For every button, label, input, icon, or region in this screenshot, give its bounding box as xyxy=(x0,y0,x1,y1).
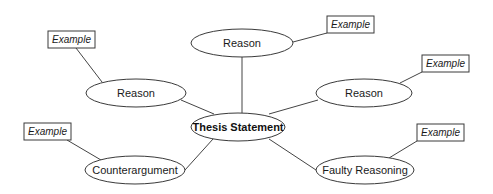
example-label: Example xyxy=(28,126,67,137)
reason-node-top: Reason xyxy=(191,29,293,57)
edge-thesis-reason-left xyxy=(181,100,214,114)
counterargument-label: Counterargument xyxy=(92,164,178,176)
example-box-reason-left: Example xyxy=(48,31,95,48)
reason-left-label: Reason xyxy=(117,87,155,99)
example-label: Example xyxy=(331,19,370,30)
thesis-node: Thesis Statement xyxy=(191,113,285,141)
reason-node-right: Reason xyxy=(316,79,412,107)
thesis-label: Thesis Statement xyxy=(192,121,283,133)
reason-top-label: Reason xyxy=(223,37,261,49)
edge-reason-right-example xyxy=(400,72,422,83)
example-box-reason-top: Example xyxy=(327,16,374,33)
faulty-reasoning-node: Faulty Reasoning xyxy=(316,156,414,184)
edge-thesis-faulty-reasoning xyxy=(269,139,316,170)
edge-reason-top-example xyxy=(293,33,327,42)
example-label: Example xyxy=(52,34,91,45)
edge-reason-left-example xyxy=(76,48,102,82)
reason-node-left: Reason xyxy=(86,79,186,107)
edge-faulty-reasoning-example xyxy=(389,141,417,158)
reason-right-label: Reason xyxy=(345,87,383,99)
edge-thesis-reason-right xyxy=(269,100,318,114)
edge-counterargument-example xyxy=(67,140,101,160)
example-label: Example xyxy=(426,58,465,69)
thesis-diagram: Thesis Statement Reason Reason Reason Co… xyxy=(0,0,493,194)
edge-thesis-counterargument xyxy=(185,139,213,170)
faulty-reasoning-label: Faulty Reasoning xyxy=(322,164,408,176)
counterargument-node: Counterargument xyxy=(85,156,185,184)
example-box-counterargument: Example xyxy=(24,123,71,140)
example-label: Example xyxy=(421,127,460,138)
example-box-faulty-reasoning: Example xyxy=(417,124,464,141)
example-box-reason-right: Example xyxy=(422,55,469,72)
